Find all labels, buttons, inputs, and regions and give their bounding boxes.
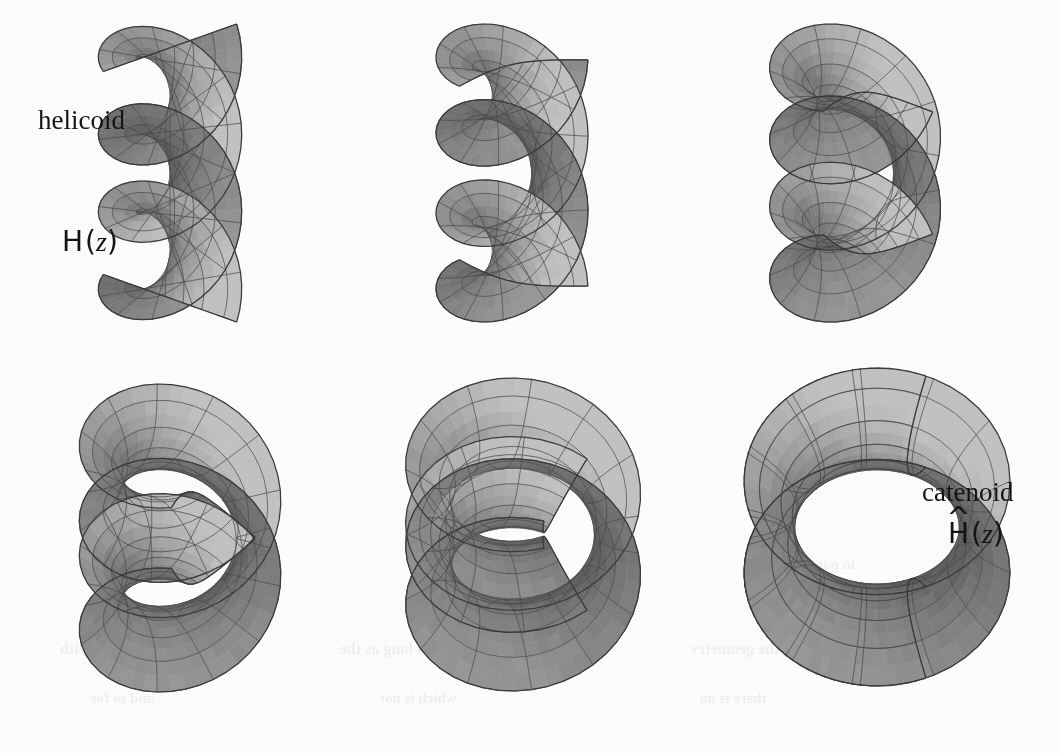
surface-panel-3 — [690, 18, 1020, 328]
close-paren: ) — [993, 517, 1004, 550]
variable-z: z — [982, 518, 993, 549]
helicoid-formula: H(z) — [62, 225, 118, 258]
open-paren: ( — [971, 517, 982, 550]
helicoid-catenoid-figure: helicoidH(z)catenoidH^(z) — [0, 0, 1060, 753]
catenoid-formula: H^(z) — [948, 517, 1004, 550]
surface-panel-4 — [20, 378, 340, 698]
surface-panel-5 — [358, 372, 688, 697]
surface-panel-1 — [10, 18, 330, 328]
function-symbol: H — [62, 225, 83, 258]
close-paren: ) — [107, 225, 118, 258]
function-letter: H — [62, 225, 83, 258]
function-symbol: H^ — [948, 517, 969, 550]
variable-z: z — [96, 226, 107, 257]
helicoid-name: helicoid — [38, 105, 125, 136]
surface-panel-2 — [352, 18, 672, 328]
circumflex-hat-icon: ^ — [947, 503, 971, 532]
open-paren: ( — [85, 225, 96, 258]
